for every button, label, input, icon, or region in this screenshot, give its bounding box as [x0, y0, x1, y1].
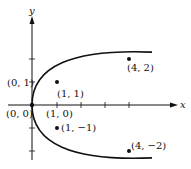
y-axis-label: y — [28, 5, 35, 16]
parabola-chart: y x (0, 1) (1, 1) (0, 0) (1, 0) (1, −1) … — [0, 0, 191, 169]
label-4-2: (4, 2) — [127, 62, 154, 73]
label-0-1: (0, 1) — [7, 77, 34, 88]
point-4-2 — [127, 57, 131, 61]
x-axis-arrow-icon — [170, 103, 178, 108]
point-1-m1 — [55, 126, 59, 130]
label-1-0: (1, 0) — [46, 108, 73, 119]
label-1-1: (1, 1) — [57, 88, 84, 99]
point-0-0 — [30, 103, 34, 107]
label-1-m1: (1, −1) — [61, 122, 96, 133]
label-0-0: (0, 0) — [6, 108, 33, 119]
label-4-m2: (4, −2) — [131, 140, 166, 151]
y-axis-arrow-icon — [30, 16, 35, 24]
point-1-1 — [55, 80, 59, 84]
x-axis-label: x — [180, 99, 186, 110]
